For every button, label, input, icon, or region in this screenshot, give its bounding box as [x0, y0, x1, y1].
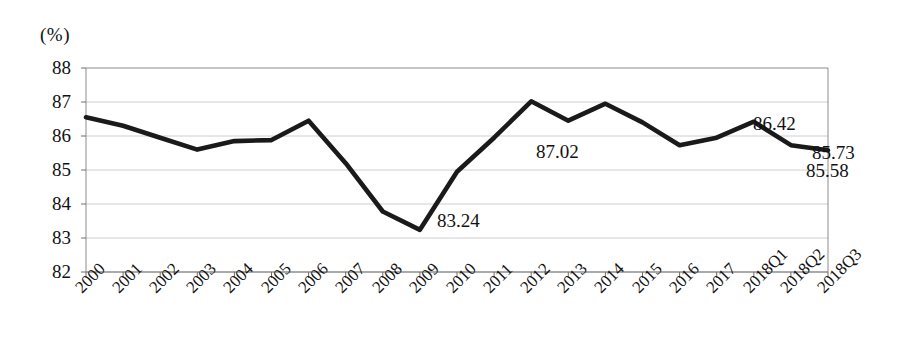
y-axis-label-86: 86	[31, 126, 71, 145]
y-axis-label-88: 88	[31, 58, 71, 77]
chart-container: (%) 88878685848382 200020012002200320042…	[0, 0, 900, 361]
annotation-86-42: 86.42	[753, 114, 796, 133]
annotation-87-02: 87.02	[536, 142, 579, 161]
y-axis-label-83: 83	[31, 228, 71, 247]
annotation-85-58: 85.58	[806, 161, 849, 180]
y-axis-label-85: 85	[31, 160, 71, 179]
annotation-83-24: 83.24	[437, 211, 480, 230]
y-axis-label-84: 84	[31, 194, 71, 213]
y-axis-label-82: 82	[31, 262, 71, 281]
line-chart-plot	[0, 0, 900, 361]
y-axis-label-87: 87	[31, 92, 71, 111]
